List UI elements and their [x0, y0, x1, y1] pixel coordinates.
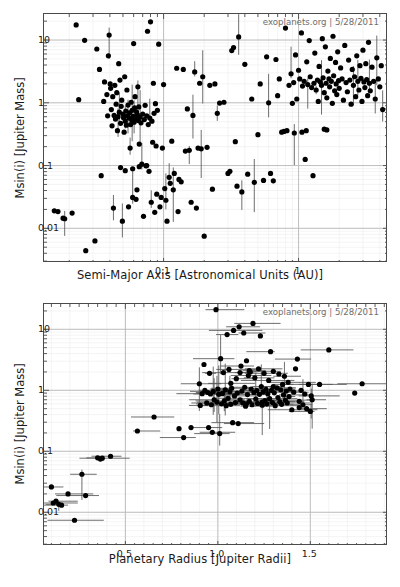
- x-tick-label: 0.5: [117, 548, 132, 559]
- exoplanet-scatter-figure-page: exoplanets.org | 5/28/2011 Semi-Major Ax…: [0, 0, 400, 587]
- plot-area-bottom: [43, 303, 387, 545]
- x-tick-label: 1: [295, 265, 301, 276]
- y-axis-label-bottom: Msin(i) [Jupiter Mass]: [13, 363, 27, 484]
- x-tick-label: 1.5: [302, 548, 317, 559]
- figure-planetary-radius: exoplanets.org | 5/28/2011 Planetary Rad…: [0, 290, 400, 587]
- figure-semi-major-axis: exoplanets.org | 5/28/2011 Semi-Major Ax…: [0, 0, 400, 290]
- x-axis-label-top: Semi-Major Axis [Astronomical Units (AU)…: [0, 268, 400, 282]
- watermark-top: exoplanets.org | 5/28/2011: [263, 17, 379, 27]
- watermark-bottom: exoplanets.org | 5/28/2011: [263, 307, 379, 317]
- x-tick-label: 0.1: [155, 265, 170, 276]
- x-tick-label: 1.0: [209, 548, 224, 559]
- y-axis-label-top: Msin(i) [Jupiter Mass]: [13, 77, 27, 198]
- plot-area-top: [43, 13, 387, 262]
- x-axis-label-bottom: Planetary Radius [Jupiter Radii]: [0, 552, 400, 566]
